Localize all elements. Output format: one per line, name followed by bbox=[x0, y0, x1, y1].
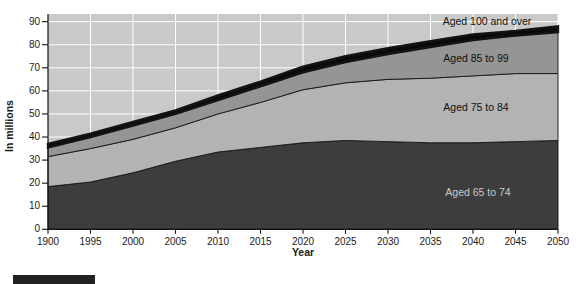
x-tick-label-1900: 1900 bbox=[31, 237, 65, 247]
chart-figure: 0102030405060708090190019952000200520102… bbox=[0, 0, 586, 284]
y-tick-label-30: 30 bbox=[14, 155, 40, 165]
series-label-aged-75-to-84: Aged 75 to 84 bbox=[443, 101, 508, 113]
x-tick-label-2005: 2005 bbox=[159, 237, 193, 247]
x-tick-label-2030: 2030 bbox=[371, 237, 405, 247]
x-tick-label-2025: 2025 bbox=[329, 237, 363, 247]
x-tick-label-2050: 2050 bbox=[541, 237, 575, 247]
series-label-aged-85-to-99: Aged 85 to 99 bbox=[443, 52, 508, 64]
x-tick-label-1995: 1995 bbox=[74, 237, 108, 247]
y-tick-label-70: 70 bbox=[14, 63, 40, 73]
y-tick-label-40: 40 bbox=[14, 132, 40, 142]
series-label-aged-100-and-over: Aged 100 and over bbox=[443, 15, 532, 27]
figure-number-bar bbox=[13, 275, 95, 284]
x-tick-label-2000: 2000 bbox=[116, 237, 150, 247]
y-tick-label-10: 10 bbox=[14, 201, 40, 211]
x-tick-label-2045: 2045 bbox=[499, 237, 533, 247]
x-tick-label-2035: 2035 bbox=[414, 237, 448, 247]
y-tick-label-80: 80 bbox=[14, 40, 40, 50]
y-tick-label-0: 0 bbox=[14, 224, 40, 234]
y-tick-label-90: 90 bbox=[14, 17, 40, 27]
y-tick-label-50: 50 bbox=[14, 109, 40, 119]
y-tick-label-20: 20 bbox=[14, 178, 40, 188]
y-tick-label-60: 60 bbox=[14, 86, 40, 96]
x-tick-label-2010: 2010 bbox=[201, 237, 235, 247]
x-axis-title: Year bbox=[292, 246, 314, 258]
x-tick-label-2015: 2015 bbox=[244, 237, 278, 247]
series-label-aged-65-to-74: Aged 65 to 74 bbox=[445, 186, 510, 198]
y-axis-title: In millions bbox=[3, 66, 15, 186]
x-tick-label-2040: 2040 bbox=[456, 237, 490, 247]
